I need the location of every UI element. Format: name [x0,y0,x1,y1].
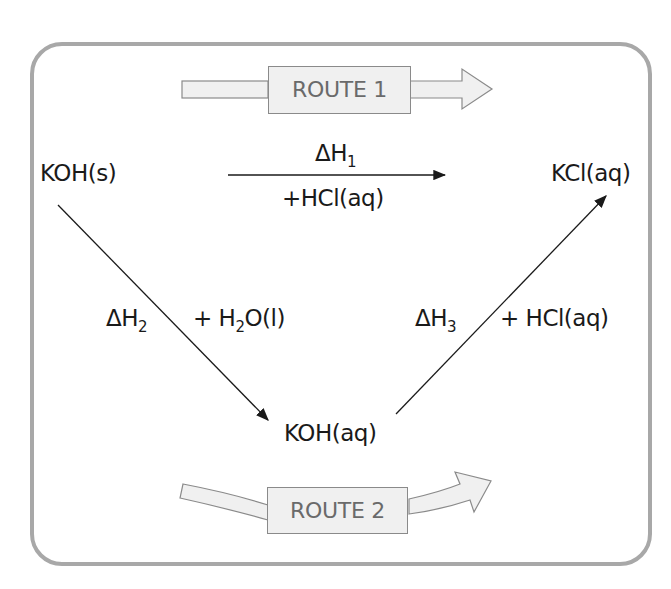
dh1-label: ΔH1 [315,140,356,171]
route2-label: ROUTE 2 [267,487,408,534]
route1-label: ROUTE 1 [268,66,411,114]
dh3-label: ΔH3 [415,305,456,336]
dh2-label: ΔH2 [106,305,147,336]
direct-reagent: +HCl(aq) [282,185,384,211]
end-node: KCl(aq) [551,160,630,186]
step2-reagent: + HCl(aq) [500,305,608,331]
start-node: KOH(s) [40,160,116,186]
intermediate-node: KOH(aq) [284,420,376,446]
step1-reagent: + H2O(l) [193,305,285,336]
